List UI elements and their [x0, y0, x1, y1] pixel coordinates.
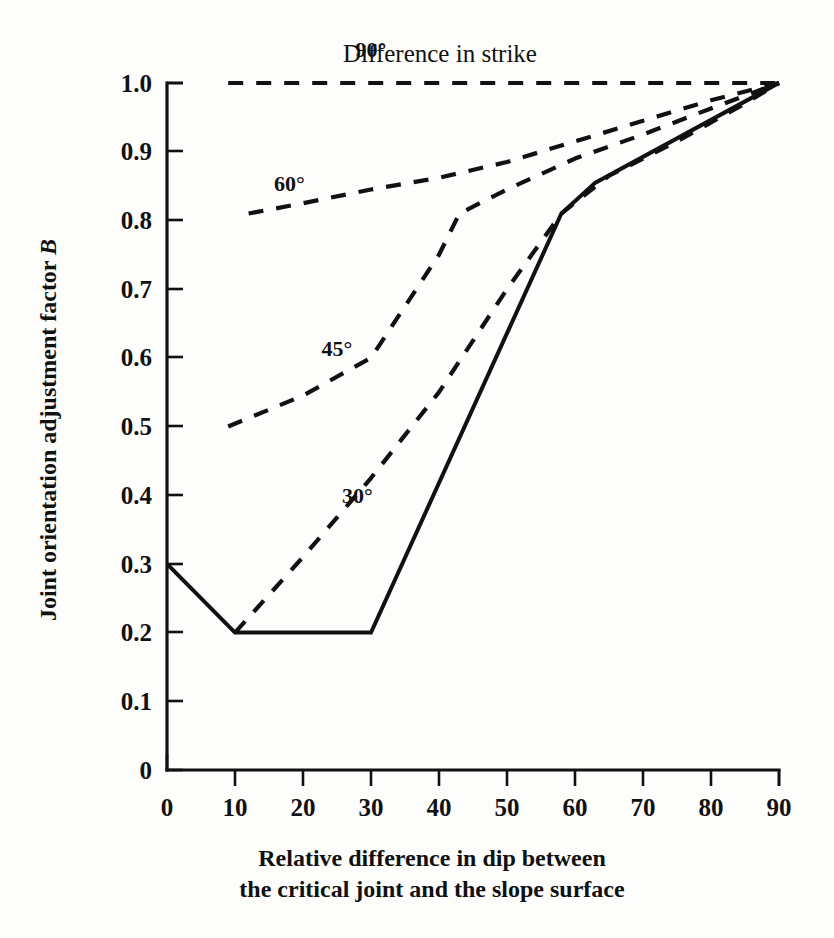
y-axis-ticks — [167, 83, 183, 770]
y-tick-label: 0.2 — [121, 619, 152, 646]
curve-60 — [249, 83, 779, 214]
chart-title: Difference in strike — [343, 40, 537, 67]
curve-label-60: 60° — [274, 171, 305, 196]
y-tick-labels: 1.0 0.9 0.8 0.7 0.6 0.5 0.4 0.3 0.2 0.1 … — [121, 70, 153, 784]
curve-label-45: 45° — [322, 336, 353, 361]
y-tick-label: 0.1 — [121, 688, 152, 715]
y-tick-label: 0.8 — [121, 207, 152, 234]
y-axis-label: Joint orientation adjustment factor B — [35, 239, 61, 621]
curve-labels: 90°60°45°30° — [274, 37, 386, 509]
y-tick-label: 1.0 — [121, 70, 152, 97]
curve-30 — [235, 83, 779, 633]
y-tick-label: 0 — [140, 757, 153, 784]
chart-figure: 1.0 0.9 0.8 0.7 0.6 0.5 0.4 0.3 0.2 0.1 … — [0, 0, 834, 938]
x-tick-label: 80 — [699, 794, 724, 821]
y-tick-label: 0.9 — [121, 138, 152, 165]
y-tick-label: 0.3 — [121, 551, 152, 578]
curve-solid — [167, 83, 779, 633]
x-tick-label: 0 — [161, 794, 174, 821]
data-curves — [167, 83, 779, 633]
x-tick-label: 40 — [427, 794, 452, 821]
x-axis-label-line1: Relative difference in dip between — [258, 845, 606, 871]
x-tick-label: 10 — [223, 794, 248, 821]
chart-plot-area: 1.0 0.9 0.8 0.7 0.6 0.5 0.4 0.3 0.2 0.1 … — [0, 0, 834, 938]
x-tick-label: 20 — [291, 794, 316, 821]
x-tick-label: 30 — [359, 794, 384, 821]
y-tick-label: 0.7 — [121, 276, 152, 303]
x-tick-label: 50 — [495, 794, 520, 821]
x-tick-labels: 0 10 20 30 40 50 60 70 80 90 — [161, 794, 792, 821]
y-tick-label: 0.6 — [121, 344, 152, 371]
svg-text:Joint orientation adjustment f: Joint orientation adjustment factor B — [35, 239, 61, 621]
curve-45 — [228, 83, 779, 427]
y-tick-label: 0.4 — [121, 482, 153, 509]
curve-label-30: 30° — [342, 483, 373, 508]
y-tick-label: 0.5 — [121, 413, 152, 440]
x-tick-label: 90 — [767, 794, 792, 821]
x-tick-label: 60 — [563, 794, 588, 821]
y-axis-label-symbol: B — [35, 239, 61, 256]
x-tick-label: 70 — [631, 794, 656, 821]
x-axis-label-line2: the critical joint and the slope surface — [239, 876, 625, 902]
y-axis-label-main: Joint orientation adjustment factor — [35, 255, 61, 621]
